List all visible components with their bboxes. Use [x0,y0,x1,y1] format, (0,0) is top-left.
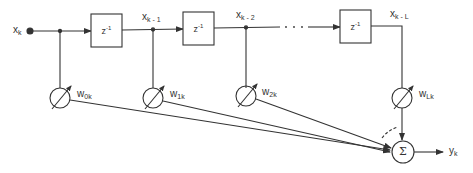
weighted-line-2 [256,99,391,148]
weight-label-1: w1k [170,89,185,100]
output-label: yk [449,146,458,157]
weight-label-0: w0k [77,89,92,100]
weight-label-2: w2k [262,87,277,98]
input-label: xk [13,25,22,36]
weight-0 [50,86,71,109]
signal-line [371,26,402,88]
weight-L [392,86,413,109]
delay-label-1: z-1 [91,25,122,36]
ellipsis [285,26,303,28]
tap-label-2: xk - 2 [236,10,255,21]
delay-label-3: z-1 [340,21,371,32]
weighted-line-0 [70,100,390,150]
weighted-line-1 [163,101,390,152]
sigma-symbol: Σ [395,145,411,158]
dashed-arc [382,127,398,138]
weight-1 [143,86,164,109]
tap-label-L: xk - L [390,9,409,20]
tap-label-1: xk - 1 [142,12,161,23]
weight-label-L: wLk [419,89,434,100]
delay-label-2: z-1 [183,23,214,34]
